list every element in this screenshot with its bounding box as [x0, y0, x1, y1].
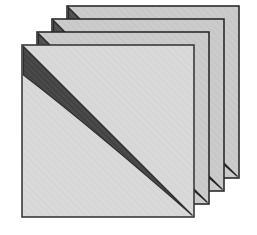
- figure-root: Stacked Sheets With Diagonal Band Four i…: [0, 0, 257, 235]
- stacked-sheets-diagram: [0, 0, 257, 235]
- sheet-front-1: [22, 45, 194, 217]
